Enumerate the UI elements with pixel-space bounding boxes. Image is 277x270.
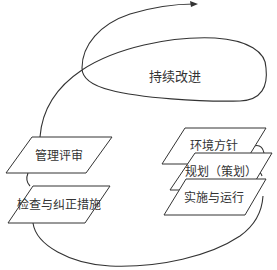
box-planning-label: 规划（策划） xyxy=(185,164,257,179)
diagram-canvas: 持续改进 管理评审 检查与纠正措施 环境方针 规划（策划） 实施与运行 xyxy=(0,0,277,270)
left-connector-curve xyxy=(27,173,30,186)
box-management-review-label: 管理评审 xyxy=(35,148,83,163)
arrowhead-icon xyxy=(190,1,198,7)
box-environmental-policy-label: 环境方针 xyxy=(190,138,238,153)
box-check-corrective: 检查与纠正措施 xyxy=(8,186,110,223)
box-management-review: 管理评审 xyxy=(6,137,112,173)
box-check-corrective-label: 检查与纠正措施 xyxy=(17,197,101,212)
center-label: 持续改进 xyxy=(149,69,201,84)
box-implementation-label: 实施与运行 xyxy=(184,190,244,205)
